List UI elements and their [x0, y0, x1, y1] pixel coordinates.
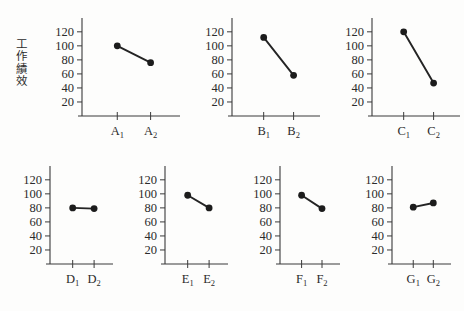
y-axis-tick-label: 60: [260, 215, 273, 229]
y-axis-tick-label: 20: [352, 95, 365, 109]
y-axis-tick-label: 120: [365, 173, 384, 187]
y-axis-tick-label: 100: [253, 187, 272, 201]
panel-b-canvas: 20406080100120B1B2: [186, 8, 326, 156]
panel-e-canvas: 20406080100120E1E2: [119, 156, 234, 304]
series-data-point: [260, 34, 267, 41]
y-axis-tick-label: 40: [260, 229, 273, 243]
y-axis-tick-label: 40: [30, 229, 43, 243]
x-axis-category-label: C2: [427, 124, 440, 140]
x-axis-category-label: G2: [427, 272, 440, 288]
series-line: [404, 32, 434, 83]
y-axis-tick-label: 80: [372, 201, 385, 215]
y-axis-tick-label: 60: [62, 67, 75, 81]
x-axis-category-label: C1: [397, 124, 410, 140]
y-axis-tick-label: 100: [55, 39, 74, 53]
chart-panel-c: 20406080100120C1C2: [326, 8, 464, 156]
panel-a-canvas: 20406080100120A1A2: [36, 8, 186, 156]
chart-panel-e: 20406080100120E1E2: [119, 156, 234, 306]
series-data-point: [430, 80, 437, 87]
y-axis-tick-label: 20: [62, 95, 75, 109]
y-axis-tick-label: 120: [23, 173, 42, 187]
y-axis-tick-label: 40: [145, 229, 158, 243]
x-axis-category-label: E2: [203, 272, 215, 288]
y-axis-tick-label: 80: [352, 53, 365, 67]
series-data-point: [400, 28, 407, 35]
series-data-point: [430, 200, 437, 207]
y-axis-tick-label: 120: [253, 173, 272, 187]
y-axis-tick-label: 60: [352, 67, 365, 81]
y-axis-tick-label: 20: [372, 243, 385, 257]
panel-g-canvas: 20406080100120G1G2: [346, 156, 457, 304]
y-axis-tick-label: 60: [212, 67, 225, 81]
series-data-point: [114, 42, 121, 49]
y-axis-tick-label: 20: [145, 243, 158, 257]
panel-c-canvas: 20406080100120C1C2: [326, 8, 464, 156]
chart-panel-d: 20406080100120D1D2: [4, 156, 119, 306]
x-axis-category-label: F1: [296, 272, 307, 288]
y-axis-tick-label: 100: [23, 187, 42, 201]
y-axis-tick-label: 100: [138, 187, 157, 201]
y-axis-tick-label: 120: [205, 25, 224, 39]
y-axis-tick-label: 120: [138, 173, 157, 187]
x-axis-category-label: D2: [87, 272, 100, 288]
series-data-point: [410, 204, 417, 211]
y-axis-tick-label: 80: [260, 201, 273, 215]
series-line: [117, 46, 150, 63]
y-axis-tick-label: 40: [352, 81, 365, 95]
series-data-point: [91, 205, 98, 212]
x-axis-category-label: G1: [407, 272, 420, 288]
chart-panel-a: 20406080100120A1A2: [36, 8, 186, 156]
x-axis-category-label: F2: [316, 272, 327, 288]
series-line: [302, 195, 322, 208]
x-axis-category-label: A2: [144, 124, 157, 140]
y-axis-tick-label: 20: [212, 95, 225, 109]
y-axis-tick-label: 60: [30, 215, 43, 229]
chart-panel-g: 20406080100120G1G2: [346, 156, 457, 306]
y-axis-tick-label: 20: [30, 243, 43, 257]
series-data-point: [298, 192, 305, 199]
y-axis-tick-label: 120: [345, 25, 364, 39]
chart-row-bottom: 20406080100120D1D2 20406080100120E1E2 20…: [0, 156, 461, 306]
y-axis-tick-label: 60: [145, 215, 158, 229]
y-axis-tick-label: 40: [212, 81, 225, 95]
y-axis-tick-label: 100: [365, 187, 384, 201]
y-axis-tick-label: 20: [260, 243, 273, 257]
x-axis-category-label: A1: [111, 124, 124, 140]
x-axis-category-label: B2: [287, 124, 300, 140]
y-axis-tick-label: 40: [372, 229, 385, 243]
series-data-point: [206, 204, 213, 211]
y-axis-tick-label: 80: [145, 201, 158, 215]
series-data-point: [290, 72, 297, 79]
y-axis-tick-label: 40: [62, 81, 75, 95]
series-data-point: [184, 192, 191, 199]
series-line: [264, 37, 294, 75]
y-axis-tick-label: 60: [372, 215, 385, 229]
x-axis-category-label: E1: [182, 272, 194, 288]
series-data-point: [319, 205, 326, 212]
y-axis-tick-label: 80: [62, 53, 75, 67]
y-axis-tick-label: 100: [345, 39, 364, 53]
series-data-point: [69, 204, 76, 211]
x-axis-category-label: B1: [257, 124, 270, 140]
chart-panel-b: 20406080100120B1B2: [186, 8, 326, 156]
panel-f-canvas: 20406080100120F1F2: [234, 156, 346, 304]
y-axis-tick-label: 80: [30, 201, 43, 215]
chart-panel-f: 20406080100120F1F2: [234, 156, 346, 306]
y-axis-tick-label: 80: [212, 53, 225, 67]
x-axis-category-label: D1: [66, 272, 79, 288]
chart-row-top: 20406080100120A1A2 20406080100120B1B2 20…: [0, 8, 464, 156]
panel-d-canvas: 20406080100120D1D2: [4, 156, 119, 304]
series-data-point: [147, 59, 154, 66]
y-axis-tick-label: 120: [55, 25, 74, 39]
series-line: [188, 195, 209, 208]
y-axis-tick-label: 100: [205, 39, 224, 53]
